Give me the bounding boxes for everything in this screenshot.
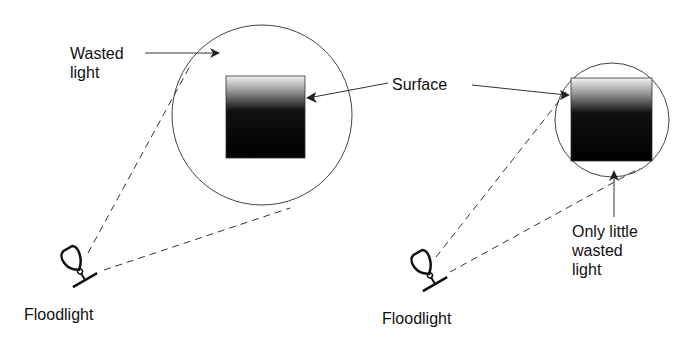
right-floodlight-label: Floodlight: [382, 309, 451, 328]
right-surface: [571, 78, 652, 161]
left-floodlight-label: Floodlight: [24, 305, 93, 324]
left-surface-arrowhead: [306, 92, 317, 103]
left-wasted-light-label: Wasted light: [70, 44, 124, 82]
right-floodlight-icon: [405, 246, 447, 291]
left-surface-arrow: [308, 83, 388, 98]
right-wasted-light-label: Only little wasted light: [572, 222, 638, 279]
surface-label: Surface: [392, 75, 447, 94]
left-beam-lower: [104, 208, 290, 270]
left-surface: [226, 76, 305, 158]
right-beam-upper: [436, 92, 566, 257]
left-beam-upper: [88, 66, 190, 253]
right-surface-arrow: [472, 85, 566, 95]
